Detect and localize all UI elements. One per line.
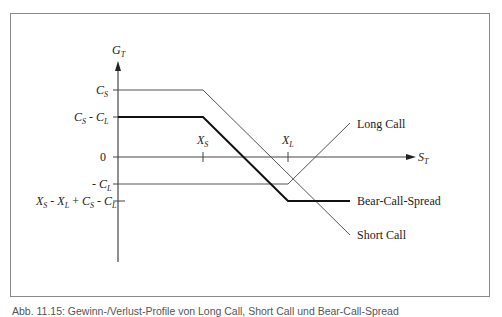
y-axis-label: GT: [112, 43, 125, 62]
figure-caption: Abb. 11.15: Gewinn-/Verlust-Profile von …: [12, 305, 399, 317]
x-axis-label: ST: [418, 150, 428, 169]
bear-call-spread-line: [118, 117, 350, 201]
y-tick-label-cs: CS: [96, 83, 108, 102]
label-long-call: Long Call: [357, 117, 405, 131]
x-axis-arrow-icon: [406, 154, 416, 160]
label-short-call: Short Call: [357, 228, 406, 242]
y-axis-arrow-icon: [115, 61, 121, 71]
label-bear-call-spread: Bear-Call-Spread: [357, 194, 441, 208]
long-call-line: [118, 123, 350, 184]
y-tick-label-max-loss: XS - XL + CS - CL: [36, 194, 116, 213]
y-tick-label-zero: 0: [100, 150, 106, 164]
x-tick-label-xl: XL: [282, 133, 294, 152]
x-tick-label-xs: XS: [197, 133, 208, 152]
y-tick-label-cs-cl: CS - CL: [74, 110, 108, 129]
short-call-line: [118, 90, 350, 235]
